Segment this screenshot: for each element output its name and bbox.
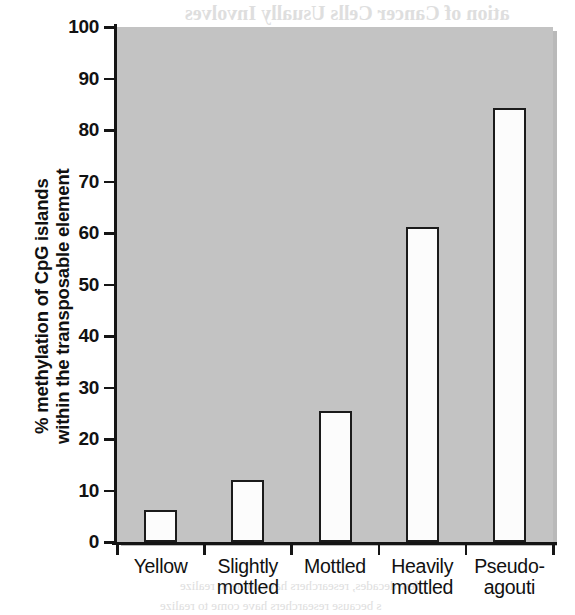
x-axis-tick [116,544,119,555]
y-axis-tick: 0 [104,541,115,544]
x-axis-label-line: Slightly [204,556,291,577]
y-axis-title: % methylation of CpG islandswithin the t… [31,86,74,526]
bar [231,480,264,542]
x-axis-tick [465,544,468,555]
x-axis-label-line: mottled [204,577,291,598]
y-axis-tick-label: 40 [78,325,99,347]
y-axis-tick-label: 10 [78,480,99,502]
y-axis-tick-label: 20 [78,428,99,450]
y-axis-tick: 100 [104,26,115,29]
bar [406,227,439,542]
y-axis-tick-label: 0 [89,531,99,553]
bar-chart-figure: 1009080706050403020100 % methylation of … [0,0,575,615]
y-axis-tick-label: 50 [78,274,99,296]
x-axis-tick [203,544,206,555]
y-axis-tick: 70 [104,181,115,184]
bar [493,108,526,542]
x-axis-label-line: Heavily [379,556,466,577]
y-axis-tick-label: 100 [68,16,99,38]
y-axis-tick: 30 [104,387,115,390]
y-axis-tick: 60 [104,232,115,235]
x-axis-tick [378,544,381,555]
y-axis-tick-label: 30 [78,377,99,399]
y-axis-tick: 90 [104,78,115,81]
x-axis-label-line: Mottled [291,556,378,577]
x-axis-label: Slightlymottled [204,556,291,598]
x-axis-label: Pseudo-agouti [466,556,553,598]
y-axis-tick: 10 [104,490,115,493]
x-axis-tick [290,544,293,555]
y-axis-tick: 40 [104,335,115,338]
x-axis-label-line: Yellow [117,556,204,577]
plot-area [117,27,553,542]
y-axis-tick-label: 80 [78,119,99,141]
x-axis-line [112,542,557,545]
x-axis-label: Yellow [117,556,204,577]
bar-series [117,27,553,542]
x-axis-label-line: agouti [466,577,553,598]
x-axis-label-line: mottled [379,577,466,598]
bar [319,411,352,542]
x-axis-label: Mottled [291,556,378,577]
y-axis-tick: 20 [104,438,115,441]
x-axis-tick [552,544,555,555]
x-axis-label: Heavilymottled [379,556,466,598]
y-axis-tick: 80 [104,129,115,132]
y-axis-tick-label: 60 [78,222,99,244]
y-axis-title-line: % methylation of CpG islands [31,86,52,526]
y-axis-tick: 50 [104,284,115,287]
bar [144,510,177,542]
y-axis-tick-label: 70 [78,171,99,193]
y-axis-title-line: within the transposable element [52,86,73,526]
x-axis-label-line: Pseudo- [466,556,553,577]
y-axis-tick-label: 90 [78,68,99,90]
